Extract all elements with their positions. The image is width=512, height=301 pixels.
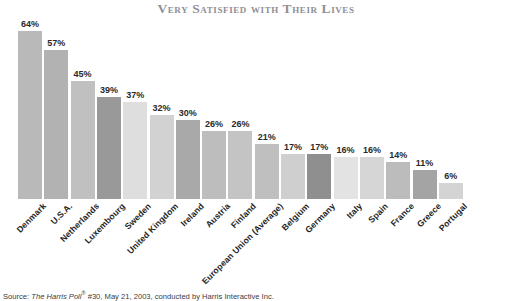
bar-group: 57% bbox=[44, 36, 68, 199]
category-label: United Kingdom bbox=[125, 201, 180, 256]
category-label: Denmark bbox=[14, 201, 48, 235]
bar-group: 26% bbox=[228, 117, 252, 199]
bar-value-label: 32% bbox=[152, 103, 170, 113]
bar bbox=[18, 31, 42, 199]
bar bbox=[44, 50, 68, 199]
bar-value-label: 30% bbox=[179, 108, 197, 118]
bar-group: 17% bbox=[307, 140, 331, 199]
bar-value-label: 16% bbox=[363, 145, 381, 155]
bar bbox=[71, 81, 95, 199]
bar-group: 16% bbox=[360, 143, 384, 199]
bar-value-label: 17% bbox=[310, 142, 328, 152]
bar bbox=[413, 170, 437, 199]
bar-value-label: 26% bbox=[205, 119, 223, 129]
bar bbox=[228, 131, 252, 199]
category-axis-labels: DenmarkU.S.A.NetherlandsLuxembourgSweden… bbox=[0, 199, 512, 281]
bar bbox=[386, 162, 410, 199]
plot-area: 64%57%45%39%37%32%30%26%26%21%17%17%16%1… bbox=[0, 0, 512, 199]
bar-group: 30% bbox=[176, 106, 200, 199]
bar-group: 6% bbox=[439, 169, 463, 199]
bar-group: 26% bbox=[202, 117, 226, 199]
bar bbox=[123, 102, 147, 199]
source-note: Source: The Harris Poll® #30, May 21, 20… bbox=[3, 289, 274, 301]
source-prefix: Source: bbox=[3, 292, 31, 301]
bar bbox=[360, 157, 384, 199]
bar bbox=[334, 157, 358, 199]
bar bbox=[97, 97, 121, 199]
bar-group: 64% bbox=[18, 17, 42, 199]
bar bbox=[176, 120, 200, 199]
bar-value-label: 39% bbox=[100, 85, 118, 95]
bar-value-label: 14% bbox=[389, 150, 407, 160]
bar-group: 11% bbox=[413, 156, 437, 199]
bar-group: 17% bbox=[281, 140, 305, 199]
bar-value-label: 45% bbox=[74, 69, 92, 79]
category-label: France bbox=[389, 201, 416, 228]
bar-group: 45% bbox=[71, 67, 95, 199]
bar-group: 16% bbox=[334, 143, 358, 199]
bar-group: 32% bbox=[150, 101, 174, 199]
bar-value-label: 64% bbox=[21, 19, 39, 29]
bar-group: 37% bbox=[123, 88, 147, 199]
bar bbox=[150, 115, 174, 199]
bar bbox=[439, 183, 463, 199]
category-label: Ireland bbox=[178, 201, 205, 228]
bar-group: 21% bbox=[255, 130, 279, 199]
source-suffix: #30, May 21, 2003, conducted by Harris I… bbox=[86, 292, 274, 301]
bar bbox=[202, 131, 226, 199]
bar-value-label: 37% bbox=[126, 90, 144, 100]
bar-value-label: 57% bbox=[47, 38, 65, 48]
bar bbox=[281, 154, 305, 199]
bar-group: 14% bbox=[386, 148, 410, 199]
bar bbox=[307, 154, 331, 199]
bar-chart-figure: Very Satisfied with Their Lives 64%57%45… bbox=[0, 0, 512, 301]
category-label: Austria bbox=[204, 201, 233, 230]
bar bbox=[255, 144, 279, 199]
bar-value-label: 11% bbox=[416, 158, 434, 168]
bar-value-label: 26% bbox=[231, 119, 249, 129]
source-publication: The Harris Poll bbox=[31, 292, 81, 301]
bar-group: 39% bbox=[97, 83, 121, 199]
bar-value-label: 16% bbox=[337, 145, 355, 155]
bar-value-label: 6% bbox=[444, 171, 457, 181]
category-label: Spain bbox=[366, 201, 390, 225]
bar-value-label: 17% bbox=[284, 142, 302, 152]
category-label: Italy bbox=[344, 201, 364, 221]
bar-value-label: 21% bbox=[258, 132, 276, 142]
